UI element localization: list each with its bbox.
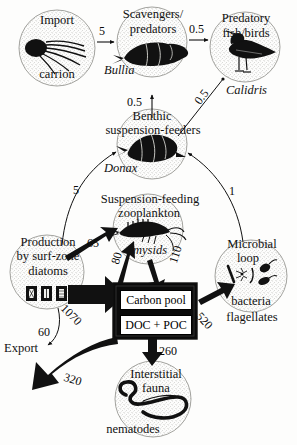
export-label: Export: [4, 341, 38, 356]
node-import[interactable]: [19, 10, 95, 86]
flow-label-carbonpool-to-interstitial: 260: [159, 345, 177, 357]
diatom-cells-icon: [26, 286, 67, 301]
node-predators[interactable]: [210, 12, 280, 82]
doc-poc-label: DOC + POC: [120, 315, 192, 335]
export-text: Export: [4, 341, 38, 355]
node-benthic[interactable]: [115, 109, 187, 179]
carbon-pool-label: Carbon pool: [120, 290, 192, 310]
figure-canvas: Import carrion Scavengers/ predators Bul…: [0, 0, 297, 445]
node-scavengers[interactable]: [112, 7, 188, 77]
flow-label-diatoms-to-benthic: 5: [73, 184, 79, 196]
flow-label-diatoms-to-export: 60: [38, 326, 50, 338]
node-interstitial[interactable]: [115, 361, 191, 437]
flow-label-scavengers-to-predators: 0.5: [189, 23, 204, 35]
flow-label-benthic-to-scavengers: 0.5: [127, 96, 142, 108]
carbon-pool-text: Carbon pool: [126, 293, 186, 307]
diagram-vector-layer: [0, 0, 297, 445]
flow-label-microbial-to-benthic: 1: [229, 185, 235, 197]
flow-label-diatoms-to-zooplankton: 65: [87, 237, 99, 249]
doc-poc-text: DOC + POC: [125, 318, 186, 332]
flow-label-import-to-scavengers: 5: [99, 25, 105, 37]
node-microbial[interactable]: [215, 240, 287, 312]
